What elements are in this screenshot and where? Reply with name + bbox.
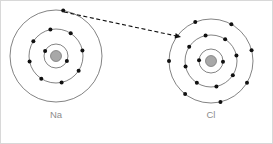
electron-transfer-arrow-head	[175, 33, 181, 38]
sodium-middle-shell-electron	[80, 48, 84, 52]
ionic-bond-diagram: NaCl	[1, 1, 273, 144]
chlorine-middle-shell-electron	[214, 84, 218, 88]
sodium-middle-shell-electron	[77, 69, 81, 73]
sodium-middle-shell-electron	[28, 60, 32, 64]
atom-sodium	[10, 9, 102, 102]
chlorine-outer-shell-electron	[229, 22, 233, 26]
chlorine-outer-shell-electron	[218, 100, 222, 104]
sodium-inner-shell-electron	[43, 49, 47, 53]
chlorine-middle-shell-electron	[195, 81, 199, 85]
chlorine-middle-shell-electron	[234, 54, 238, 58]
chlorine-outer-shell-electron	[167, 59, 171, 63]
chlorine-middle-shell-electron	[223, 37, 227, 41]
atoms-layer	[10, 9, 254, 104]
sodium-middle-shell-electron	[39, 77, 43, 81]
chlorine-outer-shell-electron	[183, 92, 187, 96]
chlorine-nucleus	[206, 56, 217, 67]
chlorine-middle-shell-electron	[184, 64, 188, 68]
chlorine-inner-shell-electron	[197, 58, 201, 62]
electron-transfer-arrow-shaft	[64, 12, 176, 36]
chlorine-outer-shell-electron	[245, 81, 249, 85]
chlorine-middle-shell-electron	[231, 73, 235, 77]
labels-layer: NaCl	[50, 109, 216, 120]
sodium-middle-shell-electron	[69, 31, 73, 35]
atom-chlorine	[167, 19, 254, 104]
chlorine-outer-shell-electron	[193, 20, 197, 24]
diagram-canvas: NaCl	[0, 0, 273, 144]
sodium-middle-shell-electron	[48, 28, 52, 32]
atom-label-sodium: Na	[50, 109, 63, 120]
chlorine-middle-shell-electron	[187, 45, 191, 49]
atom-label-chlorine: Cl	[207, 109, 216, 120]
sodium-middle-shell-electron	[60, 80, 64, 84]
chlorine-inner-shell-electron	[221, 60, 225, 64]
sodium-inner-shell-electron	[65, 59, 69, 63]
sodium-nucleus	[51, 51, 62, 62]
sodium-middle-shell-electron	[31, 39, 35, 43]
chlorine-middle-shell-electron	[204, 34, 208, 38]
chlorine-outer-shell-electron	[250, 48, 254, 52]
arrow-layer	[64, 12, 181, 38]
